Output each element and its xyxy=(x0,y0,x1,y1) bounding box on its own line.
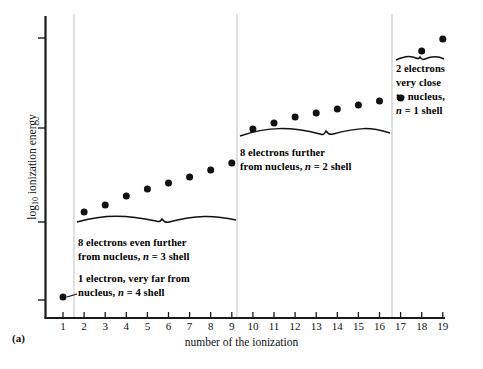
annotation-n4-shell: 1 electron, very far from nucleus, n = 4… xyxy=(78,272,190,300)
y-axis-label-subscript: 10 xyxy=(31,197,40,205)
annotation-n3-line2: from nucleus, n = 3 shell xyxy=(78,250,190,264)
x-axis-label: number of the ionization xyxy=(0,336,483,348)
figure-container: log10 ionization energy number of the io… xyxy=(0,0,483,369)
annotation-n1-shell: 2 electrons very close to nucleus, n = 1… xyxy=(396,62,478,117)
annotation-n1-line1: 2 electrons xyxy=(396,62,478,76)
data-point xyxy=(418,48,425,55)
annotation-n1-line3: to nucleus, xyxy=(396,90,478,104)
annotation-n3-line2-post: = 3 shell xyxy=(149,251,190,262)
data-point xyxy=(207,167,214,174)
data-point xyxy=(123,193,130,200)
annotation-n1-line2: very close xyxy=(396,76,478,90)
x-tick-label: 7 xyxy=(180,320,200,332)
data-point xyxy=(334,106,341,113)
brace-n2-shell xyxy=(240,129,390,136)
data-point xyxy=(81,209,88,216)
x-tick-label: 14 xyxy=(327,320,347,332)
data-point xyxy=(439,36,446,43)
x-tick-label: 17 xyxy=(391,320,411,332)
x-tick-label: 1 xyxy=(53,320,73,332)
data-point xyxy=(186,174,193,181)
annotation-n4-line2: nucleus, n = 4 shell xyxy=(78,286,190,300)
leader-line-n4 xyxy=(67,294,77,297)
x-tick-label: 3 xyxy=(95,320,115,332)
x-tick-label: 16 xyxy=(370,320,390,332)
x-tick-label: 6 xyxy=(159,320,179,332)
annotation-n4-line2-pre: nucleus, xyxy=(78,287,118,298)
x-tick-label: 4 xyxy=(116,320,136,332)
x-tick-label: 11 xyxy=(264,320,284,332)
x-tick-label: 9 xyxy=(222,320,242,332)
data-point xyxy=(292,114,299,121)
chart-plot-area xyxy=(0,0,483,369)
x-tick-label: 5 xyxy=(137,320,157,332)
data-point xyxy=(271,120,278,127)
annotation-n4-line1: 1 electron, very far from xyxy=(78,272,190,286)
annotation-n2-line1: 8 electrons further xyxy=(240,146,352,160)
data-point xyxy=(144,186,151,193)
x-tick-label: 13 xyxy=(306,320,326,332)
annotation-n2-shell: 8 electrons further from nucleus, n = 2 … xyxy=(240,146,352,174)
y-axis-label-rest: ionization energy xyxy=(26,114,38,197)
annotation-n1-line4: n = 1 shell xyxy=(396,104,478,118)
annotation-n1-line4-post: = 1 shell xyxy=(402,105,443,116)
data-point xyxy=(313,110,320,117)
panel-label: (a) xyxy=(12,332,25,344)
annotation-n3-line1: 8 electrons even further xyxy=(78,236,190,250)
data-point xyxy=(165,180,172,187)
data-point xyxy=(355,102,362,109)
annotation-n2-line2-pre: from nucleus, xyxy=(240,161,305,172)
annotation-n2-line2-post: = 2 shell xyxy=(311,161,352,172)
annotation-n4-line2-post: = 4 shell xyxy=(124,287,165,298)
brace-n1-shell xyxy=(396,56,444,60)
data-point xyxy=(376,98,383,105)
data-point xyxy=(102,202,109,209)
annotation-n3-shell: 8 electrons even further from nucleus, n… xyxy=(78,236,190,264)
x-tick-label: 10 xyxy=(243,320,263,332)
y-axis-label-base: log xyxy=(26,205,38,220)
x-tick-label: 15 xyxy=(348,320,368,332)
brace-n3-shell xyxy=(77,216,236,222)
data-point xyxy=(228,160,235,167)
annotation-n2-line2: from nucleus, n = 2 shell xyxy=(240,160,352,174)
annotation-n3-line2-pre: from nucleus, xyxy=(78,251,143,262)
data-point xyxy=(60,294,67,301)
y-axis-label: log10 ionization energy xyxy=(26,67,40,267)
x-tick-label: 2 xyxy=(74,320,94,332)
x-tick-label: 19 xyxy=(433,320,453,332)
shell-brace-group xyxy=(77,56,444,222)
x-tick-label: 18 xyxy=(412,320,432,332)
x-tick-label: 8 xyxy=(201,320,221,332)
x-tick-label: 12 xyxy=(285,320,305,332)
